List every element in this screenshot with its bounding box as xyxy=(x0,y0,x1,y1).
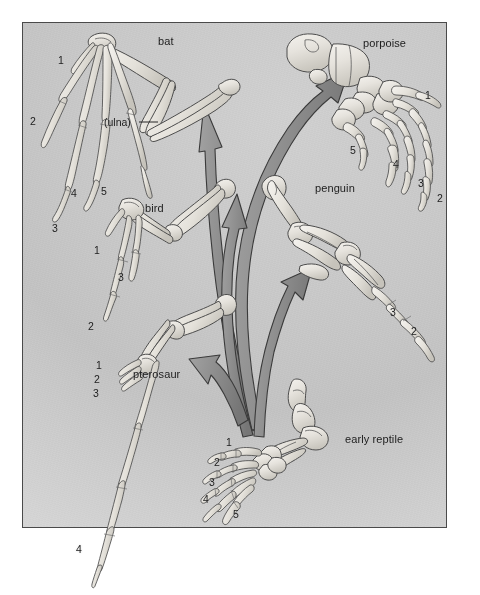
illustration-plate xyxy=(22,22,447,528)
figure-root: .bone { fill: url(#boneGrad); stroke:#4c… xyxy=(0,0,480,595)
label-pterosaur-digit-4: 4 xyxy=(76,544,82,555)
